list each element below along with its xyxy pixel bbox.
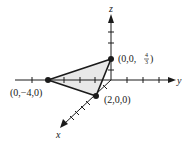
fraction-denominator: 3 xyxy=(145,59,148,65)
point-0-0-4-3 xyxy=(108,56,114,62)
y-axis-label: y xyxy=(176,75,182,86)
z-axis-label: z xyxy=(108,3,113,14)
point-label-close-paren: ) xyxy=(150,53,153,65)
diagram-canvas: z y x (0,0, 4 3 ) (0,−4,0) (2,0,0) xyxy=(0,0,183,147)
x-axis-arrow-icon xyxy=(60,119,68,128)
point-2-0-0 xyxy=(93,93,99,99)
point-label-0-neg4-0: (0,−4,0) xyxy=(10,87,42,99)
z-axis-arrow-icon xyxy=(108,14,114,23)
y-axis-arrow-icon xyxy=(168,77,176,83)
fraction-numerator: 4 xyxy=(145,52,148,58)
point-0-neg4-0 xyxy=(45,77,51,83)
x-axis-label: x xyxy=(55,129,61,140)
point-label-0-0-4-3: (0,0, xyxy=(118,53,136,65)
point-label-2-0-0: (2,0,0) xyxy=(104,94,131,106)
